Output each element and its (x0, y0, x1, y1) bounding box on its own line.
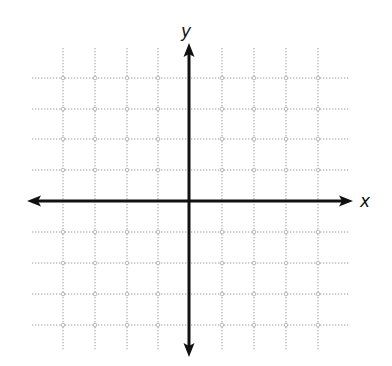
grid-intersection-marker (61, 137, 65, 141)
grid-intersection-marker (156, 261, 160, 265)
grid-intersection-marker (316, 230, 320, 234)
grid-intersection-marker (252, 261, 256, 265)
grid-intersection-marker (316, 168, 320, 172)
grid-intersection-marker (93, 261, 97, 265)
grid-intersection-marker (93, 137, 97, 141)
grid-intersection-marker (316, 137, 320, 141)
grid-lines (32, 48, 350, 350)
grid-intersection-marker (220, 76, 224, 80)
grid-intersection-marker (125, 137, 129, 141)
grid-intersection-marker (316, 107, 320, 111)
axes (27, 43, 353, 357)
grid-intersection-marker (316, 76, 320, 80)
grid-intersection-marker (316, 323, 320, 327)
grid-intersection-marker (252, 168, 256, 172)
grid-intersection-marker (93, 292, 97, 296)
grid-intersection-marker (125, 323, 129, 327)
grid-intersection-marker (125, 261, 129, 265)
grid-intersection-marker (156, 137, 160, 141)
grid-intersection-marker (125, 292, 129, 296)
grid-intersection-marker (61, 323, 65, 327)
grid-intersection-marker (61, 292, 65, 296)
grid-intersection-marker (252, 292, 256, 296)
grid-intersection-marker (156, 292, 160, 296)
grid-intersection-marker (125, 230, 129, 234)
grid-intersection-marker (61, 261, 65, 265)
grid-intersection-marker (93, 107, 97, 111)
grid-intersection-marker (125, 168, 129, 172)
grid-intersection-marker (61, 107, 65, 111)
grid-intersection-marker (125, 107, 129, 111)
grid-intersection-marker (252, 107, 256, 111)
grid-intersection-marker (316, 292, 320, 296)
coordinate-plane: x y (0, 0, 392, 366)
grid-intersection-marker (252, 230, 256, 234)
grid-intersection-marker (252, 137, 256, 141)
grid-intersection-marker (220, 230, 224, 234)
grid-intersection-marker (284, 168, 288, 172)
grid-intersection-marker (220, 323, 224, 327)
grid-intersection-marker (61, 168, 65, 172)
grid-intersection-marker (220, 107, 224, 111)
grid-intersection-marker (284, 261, 288, 265)
y-axis-label: y (180, 21, 192, 41)
grid-intersection-marker (220, 292, 224, 296)
grid-intersection-marker (125, 76, 129, 80)
grid-intersection-marker (61, 230, 65, 234)
grid-intersection-marker (252, 76, 256, 80)
grid-intersection-marker (156, 107, 160, 111)
grid-intersection-marker (156, 76, 160, 80)
grid-intersection-marker (93, 323, 97, 327)
grid-intersection-marker (284, 76, 288, 80)
grid-intersection-marker (93, 76, 97, 80)
grid-intersection-marker (220, 261, 224, 265)
grid-intersection-marker (93, 168, 97, 172)
grid-intersection-marker (61, 76, 65, 80)
grid-intersection-marker (93, 230, 97, 234)
grid-intersection-marker (284, 107, 288, 111)
grid-intersection-marker (156, 323, 160, 327)
grid-intersection-marker (220, 137, 224, 141)
grid-intersection-marker (220, 168, 224, 172)
x-axis-label: x (359, 191, 371, 211)
grid-intersection-marker (156, 168, 160, 172)
grid-intersection-marker (284, 323, 288, 327)
grid-intersection-marker (284, 292, 288, 296)
grid-intersection-marker (156, 230, 160, 234)
grid-intersection-marker (252, 323, 256, 327)
grid-intersection-marker (284, 137, 288, 141)
grid-intersection-marker (316, 261, 320, 265)
grid-intersection-marker (284, 230, 288, 234)
